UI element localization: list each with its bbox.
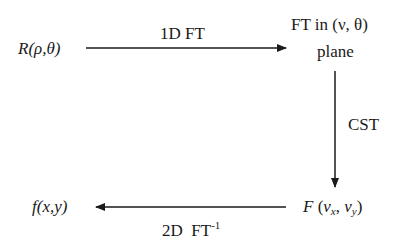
cartesian-ft-var1: v	[323, 197, 331, 216]
inverse-ft-main: 2D FT	[162, 221, 211, 240]
cartesian-ft-var2: v	[344, 197, 352, 216]
inverse-ft-superscript: -1	[211, 219, 220, 231]
node-ft-plane-line1: FT in (ν, θ)	[291, 16, 368, 33]
cartesian-ft-open: (	[313, 197, 323, 216]
node-image: f(x,y)	[32, 198, 67, 215]
cartesian-ft-close: )	[357, 197, 363, 216]
edge-label-cst: CST	[348, 116, 379, 133]
node-cartesian-ft: F (vx, vy)	[303, 198, 362, 217]
edge-label-1d-ft: 1D FT	[160, 25, 205, 42]
edge-label-2d-inverse-ft: 2D FT-1	[162, 220, 220, 239]
node-sinogram: R(ρ,θ)	[18, 40, 60, 57]
cartesian-ft-symbol: F	[303, 197, 313, 216]
cartesian-ft-sep: ,	[336, 197, 345, 216]
fourier-reconstruction-diagram: R(ρ,θ) 1D FT FT in (ν, θ) plane CST F (v…	[0, 0, 412, 248]
node-ft-plane-line2: plane	[317, 43, 354, 60]
